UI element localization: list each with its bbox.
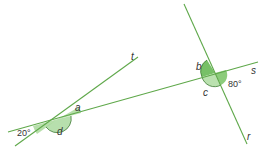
label-angle-a: a xyxy=(75,102,81,113)
line-r xyxy=(184,4,247,144)
label-line-s: s xyxy=(251,65,256,76)
label-angle-b: b xyxy=(196,61,202,72)
right-intersection-angles xyxy=(201,60,228,87)
label-angle-80: 80° xyxy=(228,79,242,89)
line-s xyxy=(8,62,258,132)
diagram-svg: t s r a b c d 20° 80° xyxy=(0,0,267,154)
label-line-r: r xyxy=(247,131,251,142)
label-angle-20: 20° xyxy=(17,128,31,138)
angle-diagram: t s r a b c d 20° 80° xyxy=(0,0,267,154)
label-line-t: t xyxy=(131,51,135,62)
label-angle-d: d xyxy=(57,126,63,137)
label-angle-c: c xyxy=(203,87,208,98)
